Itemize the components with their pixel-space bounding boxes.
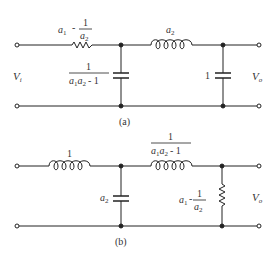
junction-dot <box>221 104 225 108</box>
fraction-numerator: 1 <box>86 61 91 72</box>
fraction-denominator: a2 <box>80 30 89 43</box>
resistor-icon <box>219 184 225 208</box>
junction-dot <box>119 104 123 108</box>
minus-sign: - <box>189 193 192 204</box>
junction-dot <box>220 164 224 168</box>
ladder-network-diagrams: a1 - 1 a2 a2 1 a1a2- 1 1 Vi Vo (a) 1 1 a… <box>0 0 277 257</box>
resistor-label-a: a1 <box>179 194 188 207</box>
minus-sign: - <box>72 22 75 33</box>
fraction-denominator: a2 <box>194 201 203 214</box>
circuit-a <box>15 29 261 108</box>
resistor-label-a: a1 <box>58 24 67 37</box>
circuit-b <box>15 143 261 228</box>
junction-dot <box>220 224 224 228</box>
output-voltage-label: Vo <box>252 70 263 84</box>
input-voltage-label: Vi <box>13 70 22 84</box>
junction-dot <box>119 224 123 228</box>
terminal-icon <box>15 43 19 47</box>
fraction-denominator: a1a2- 1 <box>151 145 181 158</box>
terminal-icon <box>15 224 19 228</box>
inductor-icon <box>49 161 90 170</box>
junction-dot <box>119 164 123 168</box>
fraction-numerator: 1 <box>83 17 88 28</box>
terminal-icon <box>257 43 261 47</box>
junction-dot <box>119 43 123 47</box>
caption-a: (a) <box>119 116 130 128</box>
terminal-icon <box>257 104 261 108</box>
capacitor-label: 1 <box>205 70 210 81</box>
junction-dot <box>221 43 225 47</box>
fraction-numerator: 1 <box>197 188 202 199</box>
inductor-label: a2 <box>166 24 175 37</box>
capacitor-label: a2 <box>100 192 109 205</box>
inductor-label: 1 <box>67 148 72 159</box>
output-voltage-label: Vo <box>252 191 263 205</box>
caption-b: (b) <box>115 236 127 248</box>
inductor-icon <box>151 40 192 49</box>
fraction-denominator: a1a2- 1 <box>69 75 99 88</box>
terminal-icon <box>257 224 261 228</box>
fraction-numerator: 1 <box>168 131 173 142</box>
terminal-icon <box>15 104 19 108</box>
terminal-icon <box>257 164 261 168</box>
terminal-icon <box>15 164 19 168</box>
inductor-icon <box>151 161 192 170</box>
resistor-icon <box>72 42 94 48</box>
